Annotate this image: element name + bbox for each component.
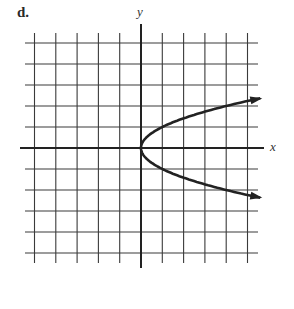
y-axis-label: y xyxy=(135,4,143,19)
arrowhead-icon xyxy=(250,96,263,104)
coordinate-graph: y x xyxy=(0,0,294,309)
arrowhead-icon xyxy=(250,192,263,200)
x-axis-label: x xyxy=(269,139,276,154)
